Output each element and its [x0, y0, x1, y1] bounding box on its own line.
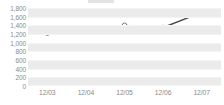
y-axis: 1,8001,6001,4001,2001,0008006004002000 [0, 8, 27, 86]
y-tick-label: 0 [22, 83, 26, 90]
grid-band [28, 60, 221, 69]
gridline [28, 69, 221, 70]
plot-top-stub [88, 0, 114, 3]
x-axis: 12/0312/0412/0512/0612/07 [28, 88, 221, 102]
y-tick-label: 200 [15, 74, 26, 81]
x-tick-label: 12/04 [78, 88, 95, 97]
x-tick-label: 12/05 [116, 88, 133, 97]
gridline [28, 51, 221, 52]
gridline [28, 85, 221, 86]
gridline [28, 17, 221, 18]
gridline [28, 60, 221, 61]
y-tick-label: 1,000 [10, 39, 26, 46]
y-tick-label: 800 [15, 48, 26, 55]
y-tick-label: 1,400 [10, 22, 26, 29]
y-tick-label: 1,200 [10, 31, 26, 38]
plot-area [28, 8, 221, 86]
y-tick-label: 1,600 [10, 13, 26, 20]
line-chart: 1,8001,6001,4001,2001,0008006004002000 1… [0, 0, 224, 105]
x-tick-label: 12/07 [193, 88, 210, 97]
y-tick-label: 1,800 [10, 5, 26, 12]
gridline [28, 77, 221, 78]
x-tick-label: 12/06 [155, 88, 172, 97]
gridline [28, 43, 221, 44]
y-tick-label: 400 [15, 65, 26, 72]
grid-band [28, 43, 221, 52]
grid-band [28, 8, 221, 17]
y-tick-label: 600 [15, 57, 26, 64]
x-tick-label: 12/03 [39, 88, 56, 97]
gridline [28, 34, 221, 35]
gridline [28, 8, 221, 9]
grid-band [28, 25, 221, 34]
gridline [28, 25, 221, 26]
